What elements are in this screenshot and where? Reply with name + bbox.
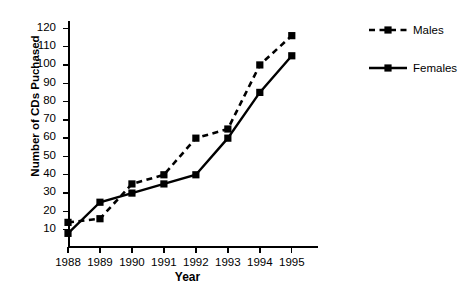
series-females — [64, 52, 295, 237]
x-tick-label: 1990 — [119, 256, 145, 268]
data-point-marker — [160, 171, 167, 178]
series-males — [64, 32, 295, 226]
plot-area: 102030405060708090100110120 198819891990… — [68, 21, 318, 248]
data-point-marker — [128, 189, 135, 196]
data-point-marker — [224, 135, 231, 142]
y-tick-label: 20 — [26, 204, 56, 216]
y-tick-label: 10 — [26, 222, 56, 234]
y-tick-label: 90 — [26, 76, 56, 88]
x-tick-label: 1991 — [151, 256, 177, 268]
data-point-marker — [192, 171, 199, 178]
data-point-marker — [256, 89, 263, 96]
y-tick-label: 60 — [26, 130, 56, 142]
data-point-marker — [256, 61, 263, 68]
x-axis-title: Year — [60, 270, 315, 284]
y-tick-label: 50 — [26, 149, 56, 161]
x-tick-label: 1989 — [87, 256, 113, 268]
data-point-marker — [96, 215, 103, 222]
chart-title: CD'S PURCHASED AT CITY MUSIC OUTLET — [52, 0, 352, 2]
data-point-marker — [288, 32, 295, 39]
chart-legend: MalesFemales — [368, 21, 460, 97]
y-tick-label: 110 — [26, 39, 56, 51]
y-tick-label: 70 — [26, 112, 56, 124]
data-series-layer — [68, 21, 318, 248]
x-tick-label: 1994 — [247, 256, 273, 268]
y-tick-label: 100 — [26, 57, 56, 69]
y-tick-label: 30 — [26, 185, 56, 197]
legend-item-females[interactable]: Females — [368, 59, 460, 76]
chart-figure: CD'S PURCHASED AT CITY MUSIC OUTLET Numb… — [0, 0, 460, 296]
data-point-marker — [128, 180, 135, 187]
legend-swatch-icon — [368, 61, 408, 75]
x-tick-label: 1992 — [183, 256, 209, 268]
data-point-marker — [192, 135, 199, 142]
y-tick-label: 80 — [26, 94, 56, 106]
x-tick-label: 1993 — [215, 256, 241, 268]
y-tick-label: 40 — [26, 167, 56, 179]
data-point-marker — [224, 125, 231, 132]
legend-label: Males — [413, 24, 444, 36]
x-tick-label: 1995 — [279, 256, 305, 268]
data-point-marker — [96, 199, 103, 206]
data-point-marker — [160, 180, 167, 187]
legend-label: Females — [413, 62, 457, 74]
series-line — [68, 56, 292, 234]
data-point-marker — [64, 219, 71, 226]
x-tick-label: 1988 — [55, 256, 81, 268]
legend-item-males[interactable]: Males — [368, 21, 460, 38]
legend-swatch-icon — [368, 23, 408, 37]
data-point-marker — [288, 52, 295, 59]
data-point-marker — [64, 230, 71, 237]
y-tick-label: 120 — [26, 21, 56, 33]
